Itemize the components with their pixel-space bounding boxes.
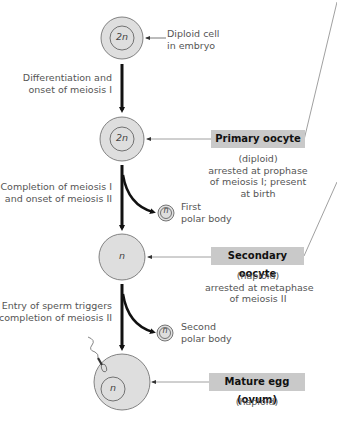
- egg-desc-line-1: (haploid): [205, 396, 309, 408]
- mature-egg-label: Mature egg (ovum): [209, 373, 305, 391]
- secondary-desc-line-1: (haploid): [205, 270, 311, 282]
- first-polar-line-2: polar body: [181, 213, 232, 225]
- embryo-ploidy-label: 2n: [110, 31, 134, 42]
- polar-body-branch-1: [123, 175, 153, 212]
- second-polar-ploidy-label: n: [157, 326, 173, 335]
- primary-desc-line-2: arrested at prophase: [205, 165, 311, 177]
- egg-ploidy-label: n: [101, 382, 125, 393]
- transition-3-line-1: Entry of sperm triggers: [0, 300, 112, 312]
- embryo-annotation-line-2: in embryo: [167, 40, 219, 52]
- primary-desc-line-4: at birth: [205, 188, 311, 200]
- secondary-desc-line-3: of meiosis II: [205, 293, 311, 305]
- embryo-annotation-line-1: Diploid cell: [167, 28, 219, 40]
- primary-ploidy-label: 2n: [110, 132, 134, 143]
- leader-line-primary: [304, 2, 337, 140]
- secondary-ploidy-label: n: [110, 250, 134, 261]
- primary-desc-line-1: (diploid): [205, 153, 311, 165]
- polar-body-branch-2: [123, 294, 153, 332]
- first-polar-line-1: First: [181, 201, 232, 213]
- transition-label-3: Entry of sperm triggers completion of me…: [0, 300, 112, 323]
- secondary-desc-line-2: arrested at metaphase: [205, 282, 311, 294]
- transition-2-line-2: and onset of meiosis II: [0, 193, 112, 205]
- transition-label-2: Completion of meiosis I and onset of mei…: [0, 181, 112, 204]
- secondary-oocyte-description: (haploid) arrested at metaphase of meios…: [205, 270, 311, 305]
- primary-desc-line-3: of meiosis I; present: [205, 176, 311, 188]
- transition-1-line-1: Differentiation and: [23, 72, 112, 84]
- second-polar-line-1: Second: [181, 321, 232, 333]
- transition-label-1: Differentiation and onset of meiosis I: [23, 72, 112, 95]
- secondary-oocyte-label: Secondary oocyte: [211, 247, 304, 265]
- embryo-annotation: Diploid cell in embryo: [167, 28, 219, 51]
- primary-oocyte-description: (diploid) arrested at prophase of meiosi…: [205, 153, 311, 199]
- primary-oocyte-label: Primary oocyte: [211, 130, 305, 148]
- first-polar-ploidy-label: n: [158, 206, 174, 215]
- second-polar-line-2: polar body: [181, 333, 232, 345]
- mature-egg-description: (haploid): [205, 396, 309, 408]
- transition-3-line-2: completion of meiosis II: [0, 312, 112, 324]
- second-polar-body-label: Second polar body: [181, 321, 232, 344]
- transition-1-line-2: onset of meiosis I: [23, 84, 112, 96]
- first-polar-body-label: First polar body: [181, 201, 232, 224]
- transition-2-line-1: Completion of meiosis I: [0, 181, 112, 193]
